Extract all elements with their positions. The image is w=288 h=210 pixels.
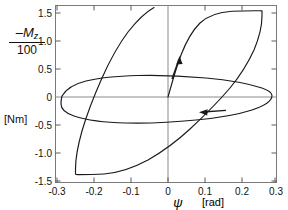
x-axis-label-symbol: ψ <box>173 195 183 210</box>
y-tick-label: 1.5 <box>38 8 52 19</box>
plot-frame <box>56 6 277 183</box>
y-tick-label: 0 <box>46 92 52 103</box>
x-tick-label: 0.3 <box>269 186 283 197</box>
y-axis-label-numerator-text: –M <box>16 25 34 40</box>
x-tick-label: -0.2 <box>85 186 103 197</box>
x-tick-label: -0.3 <box>48 186 66 197</box>
y-axis-label: –Mz 100 <box>3 26 51 56</box>
y-axis-label-numerator-subscript: z <box>34 31 39 41</box>
y-axis-unit-label: [Nm] <box>4 113 27 125</box>
y-tick-label: -0.5 <box>35 120 53 131</box>
x-tick-label: 0 <box>165 186 171 197</box>
x-axis-tick-labels: -0.3 -0.2 -0.1 0 0.1 0.2 0.3 <box>48 186 283 197</box>
x-tick-label: -0.1 <box>122 186 140 197</box>
y-tick-label: -1.0 <box>35 148 53 159</box>
y-tick-label: 0.5 <box>38 64 52 75</box>
x-axis-label-unit: [rad] <box>202 196 224 208</box>
x-tick-label: 0.2 <box>235 186 249 197</box>
y-axis-label-denominator: 100 <box>3 44 51 56</box>
chart-figure: –Mz 100 [Nm] <box>0 0 288 210</box>
y-axis-label-numerator: –Mz <box>3 26 51 41</box>
